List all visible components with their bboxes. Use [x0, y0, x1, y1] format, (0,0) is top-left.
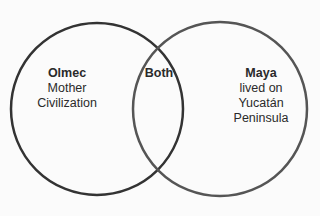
olmec-line-2: Civilization — [22, 96, 112, 111]
overlap-label: Both — [134, 66, 184, 81]
olmec-label: Olmec Mother Civilization — [22, 66, 112, 111]
maya-line-1: lived on — [225, 81, 297, 96]
maya-line-3: Peninsula — [225, 111, 297, 126]
olmec-title: Olmec — [22, 66, 112, 81]
olmec-line-1: Mother — [22, 81, 112, 96]
overlap-title: Both — [134, 66, 184, 81]
maya-title: Maya — [225, 66, 297, 81]
maya-label: Maya lived on Yucatán Peninsula — [225, 66, 297, 126]
maya-line-2: Yucatán — [225, 96, 297, 111]
